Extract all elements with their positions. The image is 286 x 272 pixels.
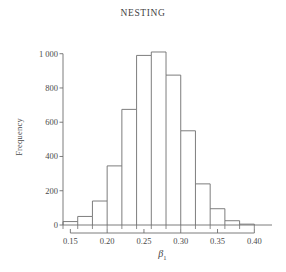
y-axis-tick-label: 1 000 — [39, 49, 58, 59]
histogram-figure: NESTING 02004006008001 000 0.150.200.250… — [0, 0, 286, 272]
x-axis-title: β1 — [158, 248, 166, 261]
x-axis-tick-label: 0.15 — [63, 236, 78, 246]
histogram-bars — [63, 52, 254, 225]
x-axis-tick-label: 0.20 — [100, 236, 115, 246]
y-axis-tick-label: 200 — [45, 186, 58, 196]
y-axis-tick-label: 400 — [45, 151, 58, 161]
y-axis-title: Frequency — [14, 92, 24, 182]
x-axis-tick-label: 0.30 — [173, 236, 188, 246]
histogram-outline — [63, 52, 254, 225]
plot-area: 02004006008001 000 0.150.200.250.300.350… — [0, 0, 286, 272]
x-axis-tick-label: 0.25 — [137, 236, 152, 246]
x-axis-tick-label: 0.40 — [247, 236, 262, 246]
x-axis-tick-label: 0.35 — [210, 236, 225, 246]
y-axis-tick-label: 600 — [45, 117, 58, 127]
y-axis-tick-label: 800 — [45, 83, 58, 93]
y-axis-tick-label: 0 — [54, 220, 58, 230]
